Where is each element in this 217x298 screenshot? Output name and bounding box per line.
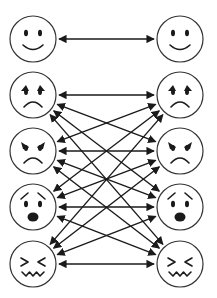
- face-outline: [157, 128, 203, 174]
- face-outline: [157, 16, 203, 62]
- face-outline: [157, 72, 203, 118]
- angry-face-right: [157, 128, 203, 174]
- face-outline: [10, 184, 56, 230]
- fearful-face-right: [157, 184, 203, 230]
- face-outline: [10, 72, 56, 118]
- disgusted-face-right: [157, 241, 203, 287]
- face-outline: [10, 241, 56, 287]
- fearful-face-left: [10, 184, 56, 230]
- happy-face-left: [10, 16, 56, 62]
- face-outline: [10, 16, 56, 62]
- sad-face-right: [157, 72, 203, 118]
- arrows-layer: [50, 39, 163, 264]
- angry-face-left: [10, 128, 56, 174]
- sad-face-left: [10, 72, 56, 118]
- happy-face-right: [157, 16, 203, 62]
- face-outline: [10, 128, 56, 174]
- face-outline: [157, 184, 203, 230]
- face-outline: [157, 241, 203, 287]
- emotion-transition-diagram: [0, 0, 217, 298]
- disgusted-face-left: [10, 241, 56, 287]
